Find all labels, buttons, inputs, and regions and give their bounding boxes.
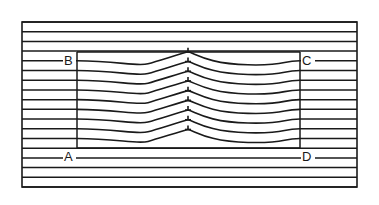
dislocation-marks [185, 48, 191, 130]
label-a: A [64, 149, 73, 164]
label-d: D [302, 149, 311, 164]
label-c: C [302, 53, 311, 68]
label-b: B [64, 53, 73, 68]
dislocation-diagram: B C A D [0, 0, 379, 205]
diagram-container: B C A D [0, 0, 379, 205]
